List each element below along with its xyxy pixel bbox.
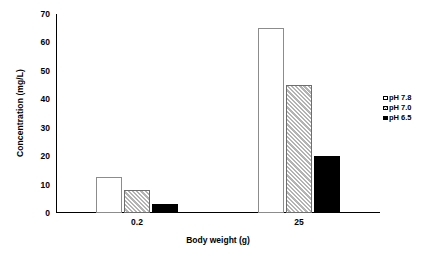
x-axis-title: Body weight (g) (56, 236, 380, 245)
y-tick-label: 50 (22, 67, 50, 76)
x-axis-tick-labels: 0.225 (56, 218, 380, 232)
bar-chart-figure: Concentration (mg/L) 010203040506070 0.2… (0, 0, 429, 257)
bar-ph-6-5-25 (314, 156, 340, 213)
y-tick-label: 10 (22, 180, 50, 189)
y-tick-label: 20 (22, 152, 50, 161)
legend-swatch-icon (383, 106, 388, 111)
chart-legend: pH 7.8pH 7.0pH 6.5 (383, 93, 429, 123)
y-axis-tick-labels: 010203040506070 (22, 0, 50, 257)
y-tick-label: 40 (22, 95, 50, 104)
legend-item: pH 7.8 (383, 93, 429, 103)
legend-label: pH 7.8 (389, 94, 412, 102)
x-tick-label: 0.2 (131, 218, 143, 227)
bar-ph-7-0-25 (286, 85, 312, 213)
y-tick-label: 60 (22, 38, 50, 47)
x-tick-label: 25 (294, 218, 303, 227)
legend-item: pH 7.0 (383, 103, 429, 113)
legend-swatch-icon (383, 116, 388, 121)
legend-label: pH 6.5 (389, 114, 412, 122)
y-tick-label: 0 (22, 209, 50, 218)
legend-swatch-icon (383, 96, 388, 101)
bar-ph-7-8-0.2 (96, 177, 122, 213)
bar-ph-7-0-0.2 (124, 190, 150, 213)
y-tick-label: 70 (22, 10, 50, 19)
y-tick-label: 30 (22, 123, 50, 132)
legend-item: pH 6.5 (383, 113, 429, 123)
bar-ph-7-8-25 (258, 28, 284, 213)
bars-layer (56, 14, 380, 213)
plot-area (56, 14, 380, 213)
bar-ph-6-5-0.2 (152, 204, 178, 213)
legend-label: pH 7.0 (389, 104, 412, 112)
